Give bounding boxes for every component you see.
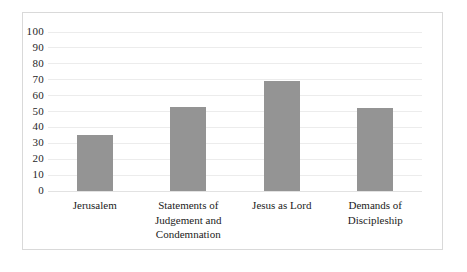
bar-chart-figure: 0102030405060708090100 JerusalemStatemen… <box>0 0 467 272</box>
x-axis-tick-label: Jesus as Lord <box>235 198 329 213</box>
x-axis: JerusalemStatements of Judgement and Con… <box>0 0 467 272</box>
x-axis-tick-label: Statements of Judgement and Condemnation <box>142 198 236 242</box>
x-axis-tick-label: Demands of Discipleship <box>329 198 423 227</box>
x-axis-tick-label: Jerusalem <box>48 198 142 213</box>
